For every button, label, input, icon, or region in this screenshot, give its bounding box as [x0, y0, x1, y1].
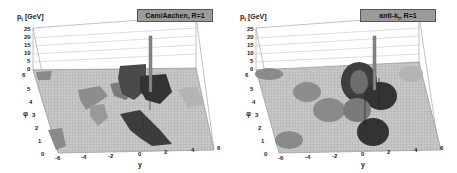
z-tick-10: 10 — [247, 50, 254, 56]
phi-tick-4: 4 — [29, 99, 32, 105]
y-tick-m6: -6 — [278, 155, 283, 161]
z-tick-5: 5 — [250, 58, 253, 64]
phi-axis-title: φ — [246, 110, 251, 117]
z-axis-unit: [GeV] — [23, 13, 44, 20]
y-tick-m6: -6 — [55, 155, 60, 161]
y-tick-m4: -4 — [81, 154, 86, 160]
z-tick-25: 25 — [247, 26, 254, 32]
phi-tick-0: 0 — [264, 151, 267, 157]
plot-title-text: anti-k — [379, 12, 398, 19]
panel-anti-kt: anti-kt, R=1 pt [GeV] 25 20 15 10 5 0 6 … — [229, 0, 457, 173]
z-tick-0: 0 — [27, 66, 30, 72]
z-tick-5: 5 — [27, 58, 30, 64]
phi-tick-5: 5 — [27, 86, 30, 92]
phi-tick-2: 2 — [35, 125, 38, 131]
phi-tick-3: 3 — [255, 112, 258, 118]
plot-title-rest: , R=1 — [400, 12, 417, 19]
z-tick-20: 20 — [247, 34, 254, 40]
z-tick-0: 0 — [250, 66, 253, 72]
panel-cam-aachen: Cam/Aachen, R=1 pt [GeV] 25 20 15 10 5 0… — [0, 0, 228, 173]
y-axis-title: y — [138, 161, 142, 168]
phi-tick-6: 6 — [22, 72, 25, 78]
phi-tick-2: 2 — [258, 125, 261, 131]
z-tick-20: 20 — [24, 34, 31, 40]
y-tick-6: 6 — [217, 145, 220, 151]
y-tick-m2: -2 — [332, 153, 337, 159]
z-axis-title: pt [GeV] — [17, 13, 44, 22]
phi-tick-1: 1 — [261, 138, 264, 144]
z-tick-15: 15 — [24, 42, 31, 48]
phi-tick-0: 0 — [41, 151, 44, 157]
phi-tick-1: 1 — [38, 138, 41, 144]
z-tick-25: 25 — [24, 26, 31, 32]
y-axis-title: y — [361, 161, 365, 168]
z-axis-unit: [GeV] — [246, 13, 267, 20]
z-tick-10: 10 — [24, 50, 31, 56]
z-tick-15: 15 — [247, 42, 254, 48]
y-tick-6: 6 — [440, 145, 443, 151]
plot-title-label: anti-kt, R=1 — [360, 9, 436, 22]
y-tick-4: 4 — [191, 147, 194, 153]
phi-tick-6: 6 — [245, 72, 248, 78]
phi-tick-3: 3 — [32, 112, 35, 118]
y-tick-m2: -2 — [108, 153, 113, 159]
y-tick-2: 2 — [164, 149, 167, 155]
phi-axis-title: φ — [23, 110, 28, 117]
y-tick-0: 0 — [138, 151, 141, 157]
y-tick-0: 0 — [361, 151, 364, 157]
plot-title-label: Cam/Aachen, R=1 — [137, 9, 213, 22]
lego-plot-anti-kt — [229, 0, 457, 173]
y-tick-4: 4 — [414, 147, 417, 153]
y-tick-2: 2 — [387, 149, 390, 155]
z-axis-title: pt [GeV] — [240, 13, 267, 22]
y-tick-m4: -4 — [305, 154, 310, 160]
phi-tick-4: 4 — [252, 99, 255, 105]
plot-title-text: Cam/Aachen, R=1 — [145, 12, 204, 19]
phi-tick-5: 5 — [250, 86, 253, 92]
